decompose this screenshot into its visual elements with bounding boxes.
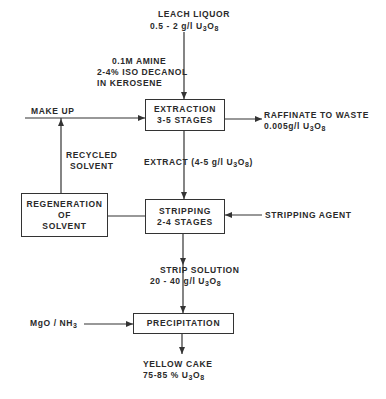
- concentration-text: 20 - 40 g/l U: [150, 276, 205, 286]
- make-up-label: MAKE UP: [31, 106, 74, 117]
- solvent-line-1: 0.1M AMINE: [112, 56, 166, 67]
- precipitation-title: PRECIPITATION: [147, 318, 220, 329]
- leach-liquor-title: LEACH LIQUOR: [158, 9, 230, 19]
- leach-liquor-label: LEACH LIQUOR: [158, 9, 230, 20]
- raffinate-concentration: 0.005g/l U3O8: [264, 121, 326, 132]
- yellow-cake-purity: 75-85 % U3O8: [143, 370, 205, 381]
- arrowhead-icon: [126, 321, 133, 327]
- raffinate-title: RAFFINATE TO WASTE: [264, 110, 369, 121]
- subscript: 3: [73, 322, 78, 329]
- arrowhead-icon: [180, 258, 186, 265]
- arrowhead-icon: [180, 306, 186, 313]
- subscript: 8: [321, 125, 326, 132]
- arrowhead-icon: [181, 92, 187, 99]
- strip-solution-title: STRIP SOLUTION: [160, 265, 240, 276]
- formula-tail: O: [210, 276, 217, 286]
- arrowhead-icon: [138, 115, 145, 121]
- subscript: 8: [214, 25, 219, 32]
- flowchart-canvas: LEACH LIQUOR 0.5 - 2 g/l U3O8 0.1M AMINE…: [0, 0, 386, 399]
- leach-liquor-concentration: 0.5 - 2 g/l U3O8: [150, 21, 219, 32]
- regeneration-solvent: SOLVENT: [26, 221, 102, 232]
- arrowhead-icon: [179, 347, 185, 354]
- stripping-stages: 2-4 STAGES: [157, 217, 213, 228]
- extract-text: EXTRACT (4-5 g/l U: [144, 157, 233, 167]
- formula-tail: O: [238, 157, 245, 167]
- yellow-cake-title: YELLOW CAKE: [143, 359, 212, 370]
- recycled-solvent-label: RECYCLED SOLVENT: [66, 150, 118, 172]
- precipitation-box: PRECIPITATION: [133, 313, 234, 334]
- purity-text: 75-85 % U: [143, 370, 189, 380]
- subscript: 8: [217, 280, 222, 287]
- stripping-title: STRIPPING: [157, 206, 213, 217]
- arrowhead-icon: [181, 192, 187, 199]
- regeneration-box: REGENERATION OF SOLVENT: [21, 193, 108, 237]
- arrowhead-icon: [255, 116, 262, 122]
- recycled-label-line1: RECYCLED: [66, 150, 118, 161]
- regeneration-title: REGENERATION: [26, 199, 102, 210]
- recycled-label-line2: SOLVENT: [66, 161, 118, 172]
- precipitant-label: MgO / NH3: [30, 318, 78, 329]
- arrowhead-icon: [225, 212, 232, 218]
- stripping-agent-label: STRIPPING AGENT: [265, 210, 352, 221]
- subscript: 8: [200, 374, 205, 381]
- strip-solution-concentration: 20 - 40 g/l U3O8: [150, 276, 221, 287]
- extraction-title: EXTRACTION: [154, 104, 216, 115]
- concentration-text: 0.5 - 2 g/l U: [150, 21, 203, 31]
- extraction-box: EXTRACTION 3-5 STAGES: [145, 99, 225, 131]
- solvent-line-3: IN KEROSENE: [97, 78, 162, 89]
- arrowhead-icon: [58, 119, 64, 126]
- precipitant-text: MgO / NH: [30, 318, 73, 328]
- extract-label: EXTRACT (4-5 g/l U3O8): [144, 157, 253, 168]
- concentration-text: 0.005g/l U: [264, 121, 310, 131]
- stripping-box: STRIPPING 2-4 STAGES: [145, 199, 225, 234]
- regeneration-of: OF: [26, 210, 102, 221]
- solvent-line-2: 2-4% ISO DECANOL: [97, 67, 188, 78]
- extraction-stages: 3-5 STAGES: [154, 115, 216, 126]
- close-paren: ): [249, 157, 252, 167]
